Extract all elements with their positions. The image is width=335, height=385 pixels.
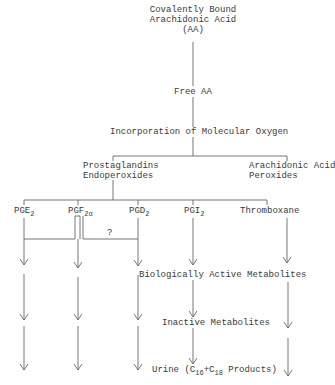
root-line1: Covalently Bound [143, 5, 243, 15]
unknown-conversion-mark: ? [107, 228, 112, 238]
inactive-metabolites-node: Inactive Metabolites [162, 318, 270, 328]
pgd2-sub: 2 [145, 210, 149, 218]
pge2-base: PGE [14, 206, 30, 216]
prostaglandin-endoperoxides-node: Prostaglandins Endoperoxides [83, 161, 159, 181]
pgf2a-sub: 2α [84, 210, 92, 218]
urine-sub2: 18 [214, 369, 222, 377]
product-pgd2: PGD2 [129, 206, 149, 216]
urine-suffix: Products) [223, 365, 277, 375]
product-pge2: PGE2 [14, 206, 34, 216]
root-line3: (AA) [143, 25, 243, 35]
covalently-bound-aa-node: Covalently Bound Arachidonic Acid (AA) [143, 5, 243, 35]
product-thromboxane: Thromboxane [240, 206, 299, 216]
urine-products-node: Urine (C16+C18 Products) [152, 365, 277, 375]
pgi2-base: PGI [184, 206, 200, 216]
urine-prefix: Urine (C [152, 365, 195, 375]
oxygen-incorporation-node: Incorporation of Molecular Oxygen [110, 127, 280, 137]
thromboxane-base: Thromboxane [240, 206, 299, 216]
peroxides-line1: Arachidonic Acid [249, 161, 335, 171]
urine-mid: +C [204, 365, 215, 375]
aa-peroxides-node: Arachidonic Acid Peroxides [249, 161, 335, 181]
pgf2a-base: PGF [68, 206, 84, 216]
pgi2-sub: 2 [200, 210, 204, 218]
endoperoxides-line2: Endoperoxides [83, 171, 159, 181]
pgd2-base: PGD [129, 206, 145, 216]
root-line2: Arachidonic Acid [143, 15, 243, 25]
product-pgf2a: PGF2α [68, 206, 93, 216]
bio-active-metabolites-node: Biologically Active Metabolites [139, 270, 306, 280]
urine-sub1: 16 [195, 369, 203, 377]
endoperoxides-line1: Prostaglandins [83, 161, 159, 171]
product-pgi2: PGI2 [184, 206, 204, 216]
peroxides-line2: Peroxides [249, 171, 335, 181]
free-aa-node: Free AA [163, 87, 223, 97]
pge2-sub: 2 [30, 210, 34, 218]
